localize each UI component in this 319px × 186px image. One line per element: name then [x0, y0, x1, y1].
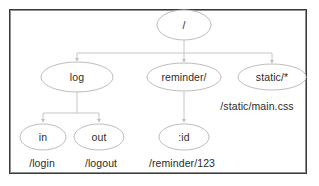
route-label-static: /static/main.css: [220, 100, 293, 112]
node-label-out: out: [92, 131, 107, 143]
node-label-reminder: reminder/: [161, 71, 206, 83]
node-label-static: static/*: [256, 71, 288, 83]
route-label-login: /login: [29, 157, 55, 169]
node-label-root: /: [182, 19, 185, 31]
edge-log-to-children: [43, 92, 99, 122]
node-label-log: log: [70, 71, 84, 83]
node-label-id: :id: [178, 131, 189, 143]
route-label-logout: /logout: [85, 157, 117, 169]
edge-root-to-children: [77, 40, 272, 63]
node-label-in: in: [39, 131, 47, 143]
diagram-page: / log reminder/ static/* in out :id /sta…: [0, 0, 319, 186]
route-label-reminder: /reminder/123: [149, 157, 215, 169]
